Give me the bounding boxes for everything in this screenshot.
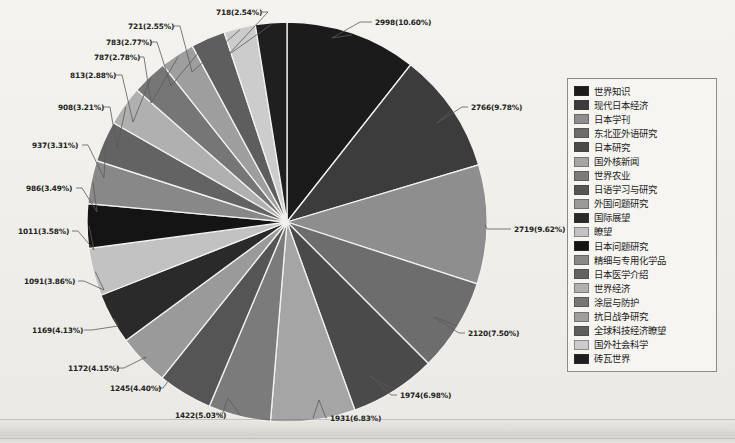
legend-swatch: [574, 354, 589, 364]
label-leader-line: [485, 225, 511, 230]
chart-legend: 世界知识现代日本经济日本学刊东北亚外语研究日本研究国外核新闻世界农业日语学习与研…: [567, 78, 717, 372]
legend-swatch: [574, 283, 589, 293]
legend-item-label: 世界农业: [594, 170, 630, 181]
legend-item-label: 精细与专用化学品: [594, 255, 666, 266]
legend-item[interactable]: 国外核新闻: [574, 154, 712, 168]
legend-item[interactable]: 日本医学介绍: [574, 267, 712, 281]
legend-item[interactable]: 抗日战争研究: [574, 310, 712, 324]
legend-swatch: [574, 199, 589, 209]
pie-data-label: 787(2.78%): [94, 53, 140, 62]
legend-swatch: [574, 269, 589, 279]
legend-swatch: [574, 100, 589, 110]
legend-item[interactable]: 国外社会科学: [574, 338, 712, 352]
pie-data-label: 908(3.21%): [58, 103, 104, 112]
legend-item-label: 国际展望: [594, 212, 630, 223]
legend-item-label: 日本研究: [594, 142, 630, 153]
legend-item[interactable]: 日本学刊: [574, 112, 712, 126]
legend-item-label: 国外社会科学: [594, 339, 648, 350]
legend-item[interactable]: 日本问题研究: [574, 239, 712, 253]
legend-item-label: 世界经济: [594, 283, 630, 294]
legend-swatch: [574, 241, 589, 251]
legend-item[interactable]: 世界经济: [574, 281, 712, 295]
pie-data-label: 1011(3.58%): [18, 227, 69, 236]
legend-item-label: 现代日本经济: [594, 100, 648, 111]
legend-item[interactable]: 日语学习与研究: [574, 183, 712, 197]
pie-data-label: 721(2.55%): [128, 22, 174, 31]
pie-data-label: 783(2.77%): [106, 38, 152, 47]
legend-item-label: 东北亚外语研究: [594, 128, 657, 139]
legend-swatch: [574, 157, 589, 167]
legend-swatch: [574, 255, 589, 265]
legend-item-label: 国外核新闻: [594, 156, 639, 167]
legend-item[interactable]: 外国问题研究: [574, 197, 712, 211]
pie-data-label: 2719(9.62%): [514, 225, 565, 234]
legend-swatch: [574, 86, 589, 96]
pie-data-label: 1169(4.13%): [32, 326, 83, 335]
legend-item[interactable]: 精细与专用化学品: [574, 253, 712, 267]
legend-item[interactable]: 现代日本经济: [574, 98, 712, 112]
legend-item[interactable]: 砖瓦世界: [574, 352, 712, 366]
legend-swatch: [574, 128, 589, 138]
legend-item[interactable]: 涂层与防护: [574, 295, 712, 309]
legend-item-label: 世界知识: [594, 86, 630, 97]
legend-item-label: 砖瓦世界: [594, 353, 630, 364]
pie-data-label: 986(3.49%): [26, 184, 72, 193]
legend-item[interactable]: 世界农业: [574, 169, 712, 183]
legend-swatch: [574, 213, 589, 223]
pie-data-label: 1974(6.98%): [400, 391, 451, 400]
legend-item-label: 抗日战争研究: [594, 311, 648, 322]
pie-data-label: 1172(4.15%): [68, 364, 119, 373]
legend-item-label: 日本医学介绍: [594, 269, 648, 280]
pie-data-label: 718(2.54%): [216, 8, 262, 17]
legend-item-label: 涂层与防护: [594, 297, 639, 308]
scan-rule-lower: [0, 438, 735, 439]
legend-swatch: [574, 312, 589, 322]
legend-item-label: 日语学习与研究: [594, 184, 657, 195]
legend-item[interactable]: 日本研究: [574, 140, 712, 154]
legend-item[interactable]: 瞭望: [574, 225, 712, 239]
legend-swatch: [574, 185, 589, 195]
pie-data-label: 1091(3.86%): [24, 277, 75, 286]
legend-swatch: [574, 114, 589, 124]
legend-item[interactable]: 东北亚外语研究: [574, 126, 712, 140]
legend-item-label: 瞭望: [594, 226, 612, 237]
legend-item[interactable]: 全球科技经济瞭望: [574, 324, 712, 338]
legend-item-label: 外国问题研究: [594, 198, 648, 209]
pie-data-label: 813(2.88%): [70, 71, 116, 80]
pie-slices: [87, 22, 487, 422]
pie-data-label: 2120(7.50%): [468, 329, 519, 338]
legend-swatch: [574, 326, 589, 336]
legend-swatch: [574, 340, 589, 350]
legend-swatch: [574, 297, 589, 307]
pie-data-label: 2766(9.78%): [471, 103, 522, 112]
scan-rule-upper: [0, 419, 735, 420]
legend-swatch: [574, 142, 589, 152]
legend-item-label: 全球科技经济瞭望: [594, 325, 666, 336]
legend-swatch: [574, 171, 589, 181]
pie-data-label: 2998(10.60%): [375, 18, 431, 27]
legend-item-label: 日本学刊: [594, 114, 630, 125]
legend-item[interactable]: 国际展望: [574, 211, 712, 225]
legend-item-label: 日本问题研究: [594, 241, 648, 252]
legend-item[interactable]: 世界知识: [574, 84, 712, 98]
legend-swatch: [574, 227, 589, 237]
chart-page: 2998(10.60%)2766(9.78%)2719(9.62%)2120(7…: [0, 0, 735, 443]
pie-data-label: 1245(4.40%): [110, 384, 161, 393]
pie-data-label: 937(3.31%): [32, 141, 78, 150]
